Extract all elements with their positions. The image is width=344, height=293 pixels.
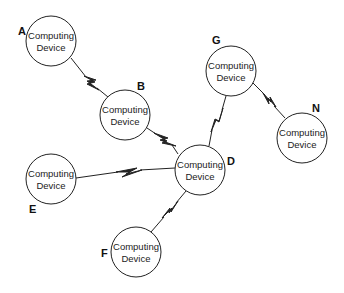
node-d: Computing Device D (175, 145, 235, 195)
node-f: Computing Device F (101, 227, 161, 277)
node-label: D (227, 155, 235, 167)
node-label: A (18, 25, 26, 37)
node-circle (206, 46, 256, 96)
link-b-d (147, 128, 178, 154)
node-label: E (29, 203, 36, 215)
lightning-bolt-icon (154, 133, 176, 146)
lightning-bolt-icon (211, 108, 223, 132)
node-text-line1: Computing (113, 241, 159, 252)
node-text-line2: Device (36, 180, 65, 191)
lightning-bolt-icon (116, 168, 142, 177)
link-e-d (76, 168, 175, 178)
node-text-line2: Device (216, 72, 245, 83)
node-label: G (212, 34, 221, 46)
lightning-bolt-icon (263, 93, 276, 107)
node-circle (111, 227, 161, 277)
link-g-n (253, 83, 285, 118)
node-circle (26, 16, 76, 66)
node-n: Computing Device N (277, 102, 327, 163)
link-g-d (209, 96, 226, 146)
link-f-d (151, 191, 186, 232)
node-circle (277, 113, 327, 163)
node-text-line2: Device (287, 139, 316, 150)
node-text-line2: Device (121, 253, 150, 264)
node-label: B (137, 80, 145, 92)
wireless-links (71, 58, 285, 232)
node-text-line2: Device (36, 42, 65, 53)
node-text-line1: Computing (177, 159, 223, 170)
node-a: Computing Device A (18, 16, 76, 66)
link-a-b (71, 58, 108, 97)
node-text-line1: Computing (28, 30, 74, 41)
node-circle (175, 145, 225, 195)
node-circle (100, 90, 150, 140)
node-text-line1: Computing (28, 168, 74, 179)
node-circle (26, 154, 76, 204)
node-e: Computing Device E (26, 154, 76, 215)
lightning-bolt-icon (162, 201, 178, 218)
node-text-line1: Computing (102, 104, 148, 115)
node-text-line2: Device (110, 116, 139, 127)
network-diagram: Computing Device A Computing Device B Co… (0, 0, 344, 293)
lightning-bolt-icon (84, 76, 99, 90)
node-text-line1: Computing (208, 60, 254, 71)
node-text-line1: Computing (279, 127, 325, 138)
node-label: F (101, 247, 108, 259)
node-b: Computing Device B (100, 80, 150, 140)
node-g: Computing Device G (206, 34, 256, 96)
node-label: N (312, 102, 320, 114)
node-text-line2: Device (185, 171, 214, 182)
